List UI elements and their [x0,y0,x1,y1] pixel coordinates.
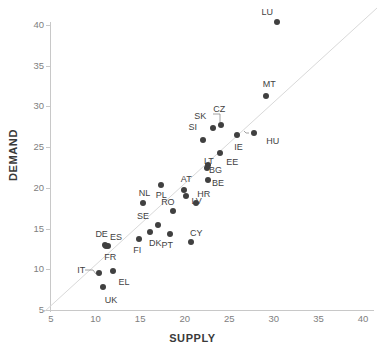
data-point-label: DK [149,239,162,248]
data-point-label: IE [234,143,243,152]
y-tick-mark [46,106,50,107]
data-point-label: IT [77,266,85,275]
y-tick-label: 10 [18,264,44,274]
data-point-label: HR [197,190,210,199]
data-point-label: SK [194,112,206,121]
data-point-label: FI [133,246,141,255]
data-point [170,208,176,214]
x-tick-label: 40 [349,314,377,324]
x-tick-label: 30 [260,314,288,324]
data-point-label: ES [110,233,122,242]
data-point [193,200,199,206]
y-tick-mark [46,310,50,311]
x-tick-label: 5 [37,314,65,324]
data-point [140,200,146,206]
y-tick-mark [46,25,50,26]
reference-diagonal-line [0,0,385,361]
data-point-label: DE [95,230,108,239]
y-tick-label: 25 [18,142,44,152]
data-point-label: AT [181,175,192,184]
data-point-label: CY [190,229,203,238]
x-axis-title-text: SUPPLY [169,332,216,344]
y-axis-line [50,22,51,312]
data-point [234,132,240,138]
data-point [251,130,257,136]
x-tick-label: 20 [171,314,199,324]
data-point [218,122,224,128]
y-axis-title-text: DEMAND [7,129,19,181]
data-point [155,222,161,228]
data-point-label: SI [188,123,197,132]
data-point [136,236,142,242]
x-tick-label: 10 [82,314,110,324]
data-point [158,182,164,188]
data-point-label: EL [119,278,130,287]
data-point [147,229,153,235]
x-tick-label: 25 [215,314,243,324]
data-point-label: RO [161,198,175,207]
data-point [167,231,173,237]
data-point [96,270,102,276]
data-point [217,150,223,156]
data-point [263,93,269,99]
y-tick-label: 40 [18,20,44,30]
data-point-label: UK [105,296,118,305]
y-tick-label: 20 [18,183,44,193]
y-tick-mark [46,269,50,270]
x-axis-title: SUPPLY [0,332,385,344]
scatter-chart: DEMAND 510152025303540510152025303540 LU… [0,0,385,361]
data-point [100,284,106,290]
y-tick-label: 35 [18,61,44,71]
data-point-label: SE [137,212,149,221]
data-point-label: FR [104,253,116,262]
data-point [210,125,216,131]
data-point [205,177,211,183]
data-point [200,137,206,143]
data-point [188,239,194,245]
data-point-label: CZ [213,105,225,114]
y-tick-label: 15 [18,224,44,234]
data-point-label: NL [139,189,151,198]
y-tick-mark [46,188,50,189]
y-tick-label: 30 [18,101,44,111]
data-point [274,19,280,25]
x-tick-label: 15 [126,314,154,324]
data-point-label: EE [226,158,238,167]
data-point-label: BG [209,166,222,175]
y-tick-mark [46,66,50,67]
data-point [183,193,189,199]
data-point-label: MT [263,80,276,89]
data-point-label: PT [161,241,173,250]
y-tick-mark [46,147,50,148]
x-axis-line [44,310,374,311]
data-point [110,268,116,274]
data-point-label: HU [266,137,279,146]
data-point-label: LU [261,8,273,17]
leader-lines [0,0,385,361]
y-tick-mark [46,229,50,230]
x-tick-label: 35 [304,314,332,324]
data-point-label: BE [212,179,224,188]
